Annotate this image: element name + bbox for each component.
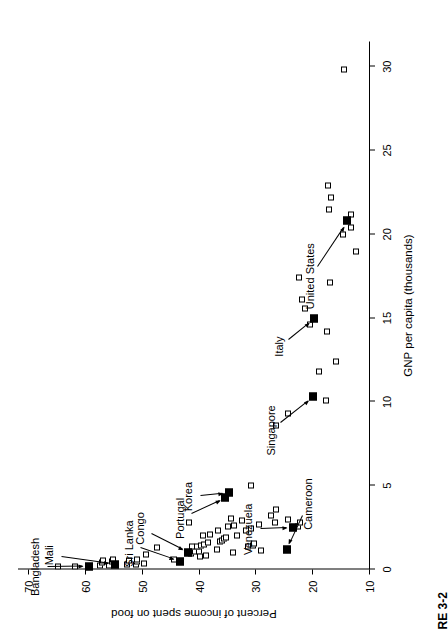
data-point (200, 532, 206, 538)
data-point (230, 549, 236, 555)
data-point (203, 552, 209, 558)
data-point-highlighted (85, 562, 93, 570)
annotation-label-italy: Italy (273, 336, 285, 356)
data-point (333, 358, 339, 364)
data-point-highlighted (343, 216, 351, 224)
data-point (348, 224, 354, 230)
data-point (228, 515, 234, 521)
data-point (248, 482, 254, 488)
data-point (296, 274, 302, 280)
data-point (348, 211, 354, 217)
data-point (268, 512, 274, 518)
data-point-highlighted (176, 557, 184, 565)
annotation-label-sri-lanka: Sri Lanka (123, 520, 135, 566)
data-point (285, 516, 291, 522)
annotation-leader-portugal (191, 499, 220, 513)
annotation-label-singapore: Singapore (265, 405, 277, 455)
x-axis-line (369, 41, 370, 569)
plot-area: 051015202530 10203040506070 BangladeshMa… (18, 41, 370, 569)
data-point (324, 328, 330, 334)
annotation-label-venezuela: Venezuela (242, 503, 254, 554)
x-tick-mark (370, 317, 375, 318)
x-tick-label: 25 (381, 144, 393, 156)
data-point (316, 368, 322, 374)
data-point (214, 546, 220, 552)
annotation-leader-korea (201, 492, 223, 495)
data-point (258, 547, 264, 553)
data-point (186, 519, 192, 525)
x-tick-label: 10 (381, 395, 393, 407)
data-point-highlighted (184, 548, 192, 556)
figure-rotation-wrapper: 051015202530 10203040506070 BangladeshMa… (0, 0, 448, 631)
y-tick-label: 40 (194, 580, 206, 592)
x-tick-label: 5 (381, 482, 393, 488)
annotation-label-united-states: United States (304, 243, 316, 309)
x-axis-title: GNP per capita (thousands) (402, 234, 414, 376)
data-point (325, 182, 331, 188)
x-tick-mark (370, 233, 375, 234)
data-point (134, 556, 140, 562)
data-point (143, 551, 149, 557)
y-axis-title: Percent of income spent on food (111, 607, 277, 619)
annotation-leader-italy (289, 322, 310, 339)
data-point (225, 523, 231, 529)
data-point (207, 531, 213, 537)
data-point (223, 534, 229, 540)
scatter-plot-figure: 051015202530 10203040506070 BangladeshMa… (0, 0, 448, 631)
x-tick-mark (370, 568, 375, 569)
annotation-label-korea: Korea (182, 481, 194, 510)
x-tick-mark (370, 484, 375, 485)
data-point-highlighted (310, 314, 318, 322)
data-point (215, 527, 221, 533)
annotation-leader-venezuela (260, 527, 286, 529)
data-point (231, 522, 237, 528)
data-point-highlighted (111, 560, 119, 568)
data-point (328, 194, 334, 200)
x-tick-mark (370, 149, 375, 150)
y-tick-label: 20 (307, 580, 319, 592)
annotation-label-cameroon: Cameroon (302, 478, 314, 529)
data-point (272, 519, 278, 525)
data-point (205, 539, 211, 545)
y-tick-label: 30 (250, 580, 262, 592)
y-tick-label: 60 (80, 580, 92, 592)
data-point (197, 553, 203, 559)
data-point-highlighted (225, 488, 233, 496)
y-tick-label: 10 (364, 580, 376, 592)
data-point (326, 206, 332, 212)
x-tick-label: 0 (381, 566, 393, 572)
data-point (341, 67, 347, 73)
annotation-label-mali: Mali (43, 545, 55, 565)
x-tick-mark (370, 400, 375, 401)
y-tick-mark (142, 569, 143, 574)
x-tick-label: 30 (381, 60, 393, 72)
data-point-highlighted (309, 392, 317, 400)
y-tick-mark (255, 569, 256, 574)
data-point (256, 521, 262, 527)
data-point (234, 532, 240, 538)
data-point (154, 544, 160, 550)
x-tick-label: 20 (381, 228, 393, 240)
annotation-label-bangladesh: Bangladesh (29, 537, 41, 595)
data-point (323, 397, 329, 403)
annotation-leader-united-states (317, 226, 344, 266)
y-tick-mark (369, 569, 370, 574)
data-point-highlighted (283, 545, 291, 553)
data-point (353, 248, 359, 254)
x-tick-label: 15 (381, 311, 393, 323)
y-tick-mark (312, 569, 313, 574)
data-point (273, 506, 279, 512)
y-tick-mark (199, 569, 200, 574)
data-point (141, 560, 147, 566)
y-tick-label: 50 (137, 580, 149, 592)
figure-caption: RE 3-2 (436, 592, 448, 629)
data-point (327, 279, 333, 285)
annotation-label-congo: Congo (134, 512, 146, 544)
x-tick-mark (370, 65, 375, 66)
